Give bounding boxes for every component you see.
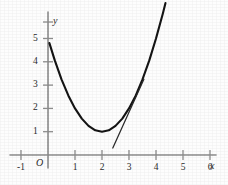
parabola-curve — [49, 3, 165, 132]
x-axis-label: x — [210, 161, 214, 171]
x-tick-label-neg1: -1 — [17, 163, 25, 173]
x-tick-label-4: 4 — [154, 163, 159, 173]
y-tick-label-5: 5 — [33, 34, 38, 44]
y-tick-label-4: 4 — [33, 57, 38, 67]
graph-canvas — [0, 0, 228, 185]
y-tick-label-1: 1 — [33, 127, 38, 137]
x-tick-label-5: 5 — [181, 163, 186, 173]
y-tick-label-2: 2 — [33, 104, 38, 114]
x-tick-label-3: 3 — [127, 163, 132, 173]
tangent-line — [113, 79, 144, 148]
x-tick-label-2: 2 — [100, 163, 105, 173]
parabola-tangent-figure: -1 1 2 3 4 5 6 1 2 3 4 5 O y x — [0, 0, 228, 185]
y-tick-label-3: 3 — [33, 80, 38, 90]
y-axis-label: y — [53, 16, 57, 26]
x-tick-label-1: 1 — [73, 163, 78, 173]
origin-label: O — [36, 158, 43, 168]
